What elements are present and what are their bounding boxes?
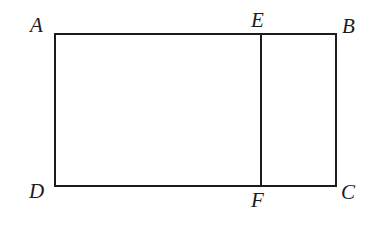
geometry-figure: A B C D E F (0, 0, 377, 229)
vertex-label-f: F (251, 190, 264, 211)
rectangle-abcd (55, 34, 336, 186)
vertex-label-e: E (251, 10, 264, 31)
vertex-label-c: C (341, 182, 355, 203)
vertex-label-b: B (342, 16, 355, 37)
vertex-label-a: A (30, 15, 43, 36)
rectangle-diagram-svg (0, 0, 377, 229)
vertex-label-d: D (29, 181, 44, 202)
